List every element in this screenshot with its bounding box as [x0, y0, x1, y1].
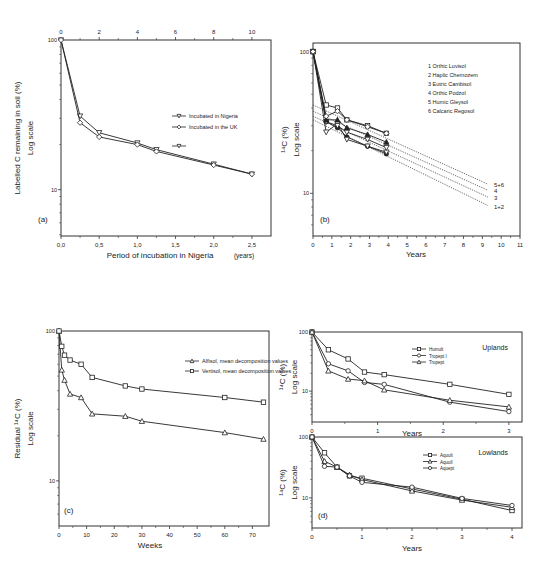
- top-x-tick-label: 0: [59, 29, 63, 35]
- x-tick-label: 2: [349, 242, 353, 248]
- square-marker-icon: [382, 372, 386, 376]
- circle-marker-icon: [335, 465, 339, 469]
- legend-label: Humult: [429, 347, 444, 352]
- triangle-marker-icon: [59, 367, 64, 372]
- triangle-marker-icon: [417, 360, 421, 364]
- chart-panel-c: 01020304050607010100WeeksResidual ¹⁴C (%…: [13, 328, 292, 550]
- x-tick-label: 9: [481, 242, 485, 248]
- y-tick-label: 10: [303, 190, 309, 196]
- extrapolation-line: [313, 120, 488, 206]
- data-line: [312, 437, 512, 505]
- legend-label: Incubated in Nigeria: [189, 113, 239, 119]
- x-tick-label: 0: [310, 428, 314, 434]
- x-axis-label: Years: [406, 250, 426, 259]
- x-tick-label: 0,5: [95, 242, 104, 248]
- square-marker-icon: [448, 382, 452, 386]
- circle-marker-icon: [410, 485, 414, 489]
- triangle-down-marker-icon: [365, 137, 370, 142]
- legend-label: Tropept I: [429, 354, 447, 359]
- y-axis-scale-label: Log scale: [290, 359, 299, 394]
- circle-marker-icon: [417, 354, 420, 357]
- y-tick-label: 100: [300, 49, 309, 55]
- x-tick-label: 1,0: [133, 242, 142, 248]
- legend-label: Aquult: [440, 453, 454, 458]
- x-axis-label: Period of incubation in Nigeria: [107, 251, 214, 260]
- panel-label: (d): [318, 511, 328, 520]
- y-tick-label: 100: [46, 328, 55, 334]
- legend-label: 3 Eutric Cambisol: [428, 81, 471, 87]
- data-line: [59, 331, 263, 402]
- plot-frame: [313, 43, 520, 236]
- circle-marker-icon: [346, 369, 350, 373]
- square-marker-icon: [428, 453, 431, 456]
- y-axis-label: ¹⁴C (%): [278, 469, 287, 496]
- extrapolation-label: 3: [494, 195, 498, 201]
- square-marker-icon: [223, 395, 227, 399]
- square-marker-icon: [140, 387, 144, 391]
- x-tick-label: 4: [510, 534, 514, 540]
- x-tick-label: 7: [443, 242, 447, 248]
- y-tick-label: 10: [302, 388, 308, 394]
- x-tick-label: 50: [194, 532, 201, 538]
- triangle-down-marker-icon: [384, 145, 389, 150]
- square-marker-icon: [190, 369, 193, 372]
- x-tick-label: 1: [360, 534, 364, 540]
- square-marker-icon: [322, 451, 326, 455]
- x-tick-label: 2,5: [248, 242, 257, 248]
- x-axis-label: Years: [402, 544, 422, 553]
- square-marker-icon: [362, 370, 366, 374]
- y-axis-label: Residual ¹⁴C (%): [13, 398, 22, 458]
- x-tick-label: 70: [249, 532, 256, 538]
- y-axis-scale-label: Log scale: [292, 122, 301, 157]
- square-marker-icon: [62, 353, 66, 357]
- square-marker-icon: [123, 384, 127, 388]
- x-tick-label: 40: [166, 532, 173, 538]
- legend-label: 2 Haplic Chernozem: [428, 72, 478, 78]
- y-axis-scale-label: Log scale: [26, 411, 35, 446]
- x-tick-label: 0: [57, 532, 61, 538]
- data-line: [312, 332, 509, 412]
- x-tick-label: 11: [517, 242, 524, 248]
- y-axis-scale-label: Log scale: [290, 465, 299, 500]
- data-line: [312, 332, 509, 407]
- triangle-marker-icon: [190, 359, 194, 363]
- x-tick-label: 3: [507, 428, 511, 434]
- y-tick-label: 10: [49, 478, 55, 484]
- y-axis-label: ¹⁴C (%): [280, 126, 289, 153]
- legend-label: Incubated in the UK: [189, 124, 238, 130]
- triangle-down-marker-icon: [177, 114, 181, 118]
- panel-label: (b): [320, 215, 330, 224]
- top-x-tick-label: 10: [249, 29, 256, 35]
- x-tick-label: 3: [368, 242, 372, 248]
- x-tick-label: 2: [410, 534, 414, 540]
- x-tick-label: 4: [387, 242, 391, 248]
- top-x-tick-label: 8: [212, 29, 216, 35]
- extrapolation-label: 1+2: [494, 204, 505, 210]
- x-tick-label: 20: [111, 532, 118, 538]
- circle-marker-icon: [428, 466, 431, 469]
- panel-label: (c): [64, 506, 74, 515]
- circle-marker-icon: [510, 503, 514, 507]
- y-axis-scale-label: Log scale: [26, 120, 35, 155]
- circle-marker-icon: [460, 496, 464, 500]
- x-tick-label: 1: [376, 428, 380, 434]
- chart-panel-d-lowlands: 0123410100Years¹⁴C (%)Log scaleAquultAqu…: [278, 434, 522, 553]
- legend-label: Alfisol, mean decomposition values: [202, 358, 288, 364]
- x-tick-label: 2: [442, 428, 446, 434]
- data-line: [312, 437, 512, 507]
- square-marker-icon: [90, 375, 94, 379]
- circle-marker-icon: [322, 464, 326, 468]
- panel-title: Lowlands: [478, 449, 508, 456]
- plot-frame: [61, 40, 271, 236]
- x-tick-label: 3: [460, 534, 464, 540]
- top-x-tick-label: 6: [174, 29, 178, 35]
- x-tick-label: 1,5: [171, 242, 180, 248]
- triangle-marker-icon: [382, 387, 387, 392]
- legend-label: Aquoll: [440, 460, 453, 465]
- square-marker-icon: [60, 344, 64, 348]
- x-tick-label: 0,0: [57, 242, 66, 248]
- y-tick-label: 100: [48, 37, 57, 43]
- circle-marker-icon: [310, 435, 314, 439]
- x-tick-label: 0: [311, 242, 315, 248]
- extrapolation-line: [313, 105, 488, 184]
